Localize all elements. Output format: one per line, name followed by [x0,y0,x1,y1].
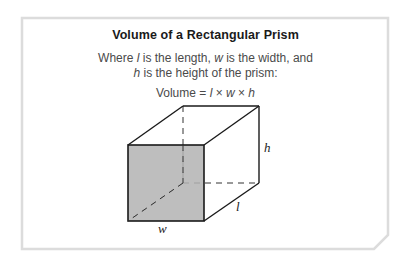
length-label: l [236,199,240,214]
width-label: w [158,221,167,236]
front-face [128,145,204,221]
rectangular-prism-diagram: h l w [0,0,411,264]
height-label: h [264,140,271,155]
